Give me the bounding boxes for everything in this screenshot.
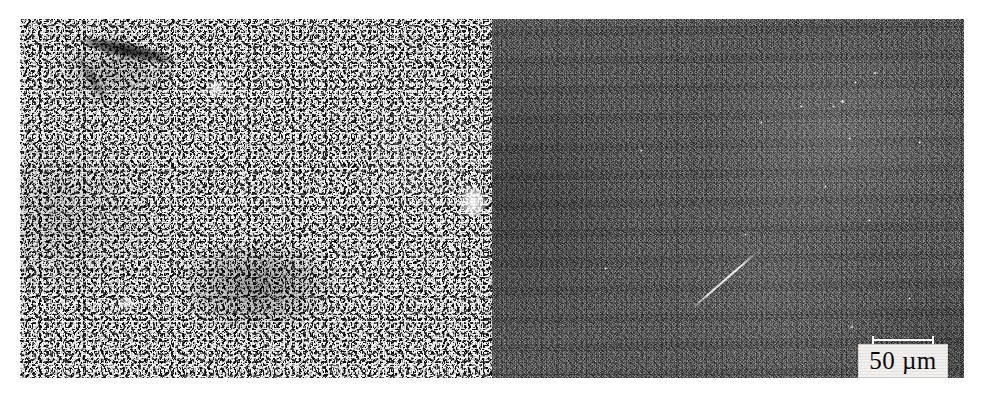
bright-particle xyxy=(604,267,607,270)
bright-particle xyxy=(800,105,803,108)
bright-particle xyxy=(832,105,835,108)
bright-particle xyxy=(918,141,921,144)
bright-particle xyxy=(840,99,845,104)
right-micrograph-panel: 50 µm xyxy=(492,19,964,378)
left-micrograph-panel xyxy=(20,19,492,378)
bright-particle xyxy=(824,185,827,188)
scale-bar: 50 µm xyxy=(858,336,948,378)
bright-particle xyxy=(873,71,877,75)
scale-bar-cap-right xyxy=(932,336,934,344)
bright-particle xyxy=(854,81,857,84)
bright-particle xyxy=(848,137,851,140)
bright-spot-upper-center xyxy=(206,81,226,97)
scale-bar-label: 50 µm xyxy=(858,344,948,378)
scale-bar-ruler-icon xyxy=(872,336,934,343)
bright-particle xyxy=(760,121,763,124)
bright-spot-lower-left xyxy=(118,297,134,310)
bright-spot-right-edge xyxy=(460,187,486,217)
bright-particle xyxy=(744,233,747,236)
bright-particle xyxy=(850,325,854,329)
scale-bar-line xyxy=(872,339,934,341)
right-panel-base-tone xyxy=(492,19,964,378)
figure-root: 50 µm xyxy=(0,0,985,400)
bright-particle xyxy=(640,149,643,152)
bright-particle xyxy=(908,297,911,300)
bright-particle xyxy=(868,219,871,222)
micrograph-plate: 50 µm xyxy=(20,19,964,378)
